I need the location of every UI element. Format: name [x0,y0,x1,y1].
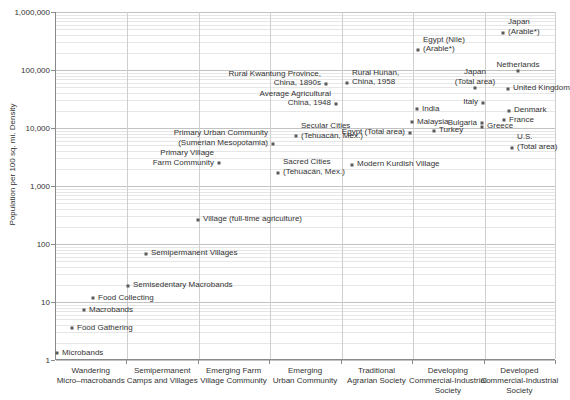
data-point-label: Japan (Arable*) [508,17,540,36]
data-point-label: Denmark [514,105,546,115]
data-point-label: Egypt (Total area) [342,127,405,137]
y-axis-tick-mark [51,244,55,245]
x-axis-tick-mark [412,360,413,364]
x-axis-category-label: DevelopedCommercial-IndustrialSociety [471,366,567,396]
y-axis-tick-mark [51,128,55,129]
data-point-label: Netherlands [478,60,558,70]
data-point-label: Italy [463,97,478,107]
x-axis-category-line: Commercial-Industrial [471,376,567,386]
data-point[interactable] [197,218,200,221]
data-point[interactable] [218,162,221,165]
data-point-label: Bulgaria [448,118,477,128]
data-point-label: Rural Kwantung Province, China, 1890s [229,69,322,88]
data-point[interactable] [145,252,148,255]
data-point[interactable] [71,327,74,330]
data-point[interactable] [417,49,420,52]
data-point[interactable] [502,31,505,34]
data-point[interactable] [83,309,86,312]
data-point-label: Sacred Cities (Tehuacán, Mex.) [283,157,345,176]
data-point-label: Primary Urban Community (Sumerian Mesopo… [174,128,268,147]
x-axis-tick-mark [198,360,199,364]
data-point[interactable] [335,102,338,105]
x-axis-tick-mark [341,360,342,364]
data-point-label: Egypt (Nile) (Arable*) [423,35,465,54]
y-axis-tick-mark [51,70,55,71]
data-point-label: France [509,115,534,125]
data-point[interactable] [127,284,130,287]
data-point[interactable] [351,164,354,167]
x-axis-category-line: Society [471,386,567,396]
x-axis-tick-mark [555,360,556,364]
data-point[interactable] [411,121,414,124]
y-axis-title: Population per 100 sq. mi. Density [8,65,17,265]
data-point[interactable] [346,81,349,84]
data-point[interactable] [56,352,59,355]
data-point[interactable] [482,101,485,104]
data-point[interactable] [416,108,419,111]
y-axis-tick-mark [51,360,55,361]
data-point[interactable] [508,109,511,112]
data-point-label: Macrobands [89,305,133,315]
data-point[interactable] [277,171,280,174]
data-point-label: Microbands [62,348,103,358]
y-axis-title-host: Population per 100 sq. mi. Density [0,0,14,400]
x-axis-category-line: Developed [471,366,567,376]
data-point[interactable] [409,131,412,134]
y-axis-tick-mark [51,12,55,13]
data-point-label: Food Collecting [98,293,154,303]
data-point-label: India [422,104,439,114]
data-point-label: Village (full-time agriculture) [203,214,302,224]
data-point[interactable] [92,297,95,300]
data-point[interactable] [481,125,484,128]
data-point-label: Food Gathering [77,323,133,333]
data-point-label: Semisedentary Macrobands [133,280,233,290]
data-point-label: U.S. (Total area) [517,132,557,151]
data-point[interactable] [507,88,510,91]
data-point[interactable] [511,146,514,149]
x-axis-tick-mark [126,360,127,364]
x-axis-tick-mark [484,360,485,364]
data-point[interactable] [325,83,328,86]
data-point[interactable] [503,119,506,122]
data-point-label: Rural Hunan, China, 1958 [352,68,399,87]
data-point[interactable] [295,135,298,138]
data-point-label: Semipermanent Villages [151,248,238,258]
data-point-label: Japan (Total area) [435,67,515,86]
data-point-label: United Kingdom [513,83,570,93]
data-point[interactable] [433,129,436,132]
x-axis-tick-mark [269,360,270,364]
data-point-label: Primary Village Farm Community [153,148,214,167]
y-axis-tick-mark [51,302,55,303]
y-axis-tick-mark [51,186,55,187]
data-point[interactable] [474,87,477,90]
data-point-label: Average Agricultural China, 1948 [260,89,331,108]
data-point[interactable] [272,142,275,145]
data-point[interactable] [517,70,520,73]
data-point-label: Modern Kurdish Village [357,159,440,169]
